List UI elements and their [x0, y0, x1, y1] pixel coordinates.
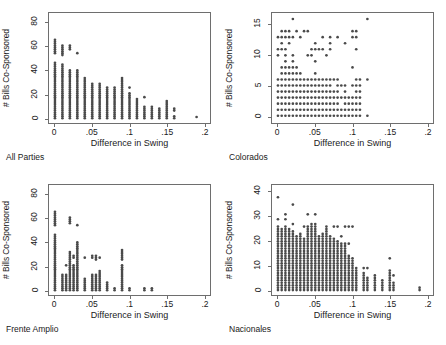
y-tick-label: 0: [235, 285, 261, 295]
x-tick-mark: [92, 124, 93, 127]
x-axis-title-1: Difference in Swing: [271, 138, 434, 148]
x-tick-mark: [390, 296, 391, 299]
x-tick-label: 0: [265, 299, 289, 309]
y-tick-label: 0: [235, 111, 261, 121]
y-tick-mark: [45, 242, 48, 243]
y-tick-mark: [45, 46, 48, 47]
y-tick-label: 40: [12, 64, 38, 74]
y-tick-label: 40: [12, 236, 38, 246]
data-points-0: [49, 13, 210, 123]
y-tick-mark: [45, 194, 48, 195]
y-tick-label: 80: [12, 188, 38, 198]
y-tick-label: 40: [235, 185, 261, 195]
y-tick-label: 15: [235, 18, 261, 28]
x-tick-mark: [353, 296, 354, 299]
y-tick-label: 80: [12, 16, 38, 26]
y-tick-label: 20: [12, 261, 38, 271]
y-axis-title-3: # Bills Co-Sponsored: [222, 184, 236, 296]
x-tick-mark: [315, 296, 316, 299]
y-tick-mark: [45, 22, 48, 23]
panel-colorados: # Bills Co-Sponsored Difference in Swing…: [223, 0, 446, 172]
y-tick-mark: [45, 218, 48, 219]
x-tick-label: .15: [155, 299, 179, 309]
scatter-plot-figure: # Bills Co-Sponsored Difference in Swing…: [0, 0, 446, 345]
y-tick-mark: [45, 70, 48, 71]
x-tick-mark: [205, 296, 206, 299]
panel-caption-0: All Parties: [6, 152, 44, 162]
y-tick-mark: [268, 216, 271, 217]
panel-nacionales: # Bills Co-Sponsored Difference in Swing…: [223, 172, 446, 344]
panel-caption-1: Colorados: [229, 152, 268, 162]
x-tick-mark: [390, 124, 391, 127]
x-tick-label: .2: [416, 299, 440, 309]
y-tick-label: 5: [235, 80, 261, 90]
panel-all-parties: # Bills Co-Sponsored Difference in Swing…: [0, 0, 223, 172]
x-axis-title-0: Difference in Swing: [48, 138, 211, 148]
plot-area-2: [48, 184, 211, 296]
x-tick-mark: [167, 296, 168, 299]
x-tick-label: .15: [378, 127, 402, 137]
y-tick-mark: [268, 55, 271, 56]
x-tick-label: .05: [303, 127, 327, 137]
x-tick-mark: [167, 124, 168, 127]
x-tick-label: 0: [42, 127, 66, 137]
x-tick-label: .1: [341, 127, 365, 137]
x-axis-title-2: Difference in Swing: [48, 310, 211, 320]
y-tick-mark: [268, 191, 271, 192]
x-tick-mark: [54, 296, 55, 299]
data-points-2: [49, 185, 210, 295]
y-tick-label: 10: [235, 49, 261, 59]
y-tick-mark: [45, 95, 48, 96]
x-tick-label: .05: [80, 299, 104, 309]
x-tick-label: .05: [80, 127, 104, 137]
y-tick-mark: [45, 267, 48, 268]
x-tick-mark: [428, 124, 429, 127]
y-tick-label: 60: [12, 212, 38, 222]
plot-area-1: [271, 12, 434, 124]
data-points-1: [272, 13, 433, 123]
x-tick-label: 0: [42, 299, 66, 309]
x-tick-mark: [130, 296, 131, 299]
x-tick-mark: [277, 124, 278, 127]
x-tick-label: .2: [193, 127, 217, 137]
y-tick-mark: [268, 291, 271, 292]
y-tick-label: 20: [12, 89, 38, 99]
y-tick-mark: [45, 119, 48, 120]
y-tick-label: 30: [235, 210, 261, 220]
y-tick-label: 20: [235, 235, 261, 245]
x-tick-mark: [428, 296, 429, 299]
plot-area-3: [271, 184, 434, 296]
x-tick-label: .1: [118, 127, 142, 137]
x-tick-label: .2: [193, 299, 217, 309]
x-tick-mark: [277, 296, 278, 299]
y-tick-label: 10: [235, 260, 261, 270]
y-tick-mark: [268, 266, 271, 267]
x-axis-title-3: Difference in Swing: [271, 310, 434, 320]
x-tick-mark: [130, 124, 131, 127]
data-points-3: [272, 185, 433, 295]
x-tick-label: 0: [265, 127, 289, 137]
panel-caption-3: Nacionales: [229, 324, 271, 334]
x-tick-mark: [353, 124, 354, 127]
y-tick-mark: [268, 86, 271, 87]
x-tick-mark: [315, 124, 316, 127]
plot-area-0: [48, 12, 211, 124]
x-tick-mark: [205, 124, 206, 127]
x-tick-label: .1: [341, 299, 365, 309]
y-tick-mark: [268, 241, 271, 242]
y-tick-mark: [268, 117, 271, 118]
x-tick-label: .1: [118, 299, 142, 309]
y-tick-label: 0: [12, 113, 38, 123]
x-tick-label: .2: [416, 127, 440, 137]
x-tick-label: .15: [155, 127, 179, 137]
x-tick-label: .05: [303, 299, 327, 309]
y-tick-label: 60: [12, 40, 38, 50]
y-tick-label: 0: [12, 285, 38, 295]
y-axis-title-1: # Bills Co-Sponsored: [222, 12, 236, 124]
x-tick-label: .15: [378, 299, 402, 309]
panel-frente-amplio: # Bills Co-Sponsored Difference in Swing…: [0, 172, 223, 344]
x-tick-mark: [54, 124, 55, 127]
x-tick-mark: [92, 296, 93, 299]
y-tick-mark: [45, 291, 48, 292]
panel-caption-2: Frente Amplio: [6, 324, 58, 334]
